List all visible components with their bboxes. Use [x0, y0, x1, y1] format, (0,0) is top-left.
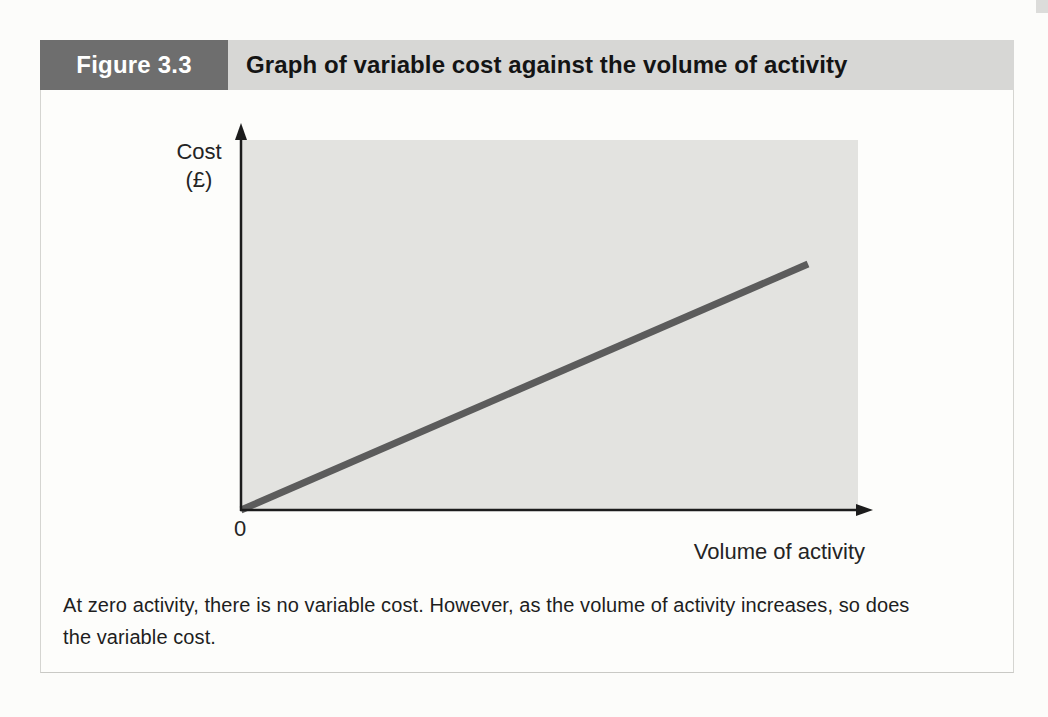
book-page: Figure 3.3 Graph of variable cost agains…	[0, 0, 1048, 717]
figure-title: Graph of variable cost against the volum…	[228, 40, 1014, 90]
page-corner-mark	[1036, 0, 1048, 13]
figure-caption-line1: At zero activity, there is no variable c…	[63, 589, 993, 621]
origin-label: 0	[225, 516, 255, 542]
y-axis-label-line2: (£)	[159, 166, 239, 194]
figure-caption: At zero activity, there is no variable c…	[63, 589, 993, 653]
plot-area	[241, 140, 858, 510]
y-axis-label-line1: Cost	[159, 138, 239, 166]
figure-body: Cost (£) 0 Volume of activity At zero ac…	[40, 90, 1014, 673]
x-axis-arrow-icon	[856, 504, 873, 516]
figure-caption-line2: the variable cost.	[63, 621, 993, 653]
figure-header: Figure 3.3 Graph of variable cost agains…	[40, 40, 1014, 90]
x-axis-label: Volume of activity	[565, 539, 865, 565]
y-axis-label: Cost (£)	[159, 138, 239, 194]
figure-label: Figure 3.3	[40, 40, 228, 90]
chart-canvas	[181, 110, 881, 530]
